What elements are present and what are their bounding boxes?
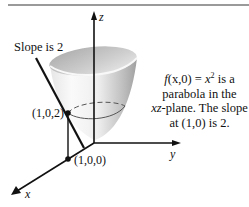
figure-caption: f(x,0) = x2 is a parabola in the xz-plan… xyxy=(150,72,249,130)
x-axis xyxy=(17,143,94,191)
caption-line-4: at (1,0) is 2. xyxy=(150,116,249,131)
slope-label: Slope is 2 xyxy=(14,41,63,54)
x-axis-arrow xyxy=(11,186,21,195)
caption-line-2: parabola in the xyxy=(150,87,249,102)
point-1-0-2 xyxy=(65,110,71,116)
caption-plane: xz xyxy=(151,101,161,115)
y-axis-arrow xyxy=(172,140,181,146)
point-label-1-0-0: (1,0,0) xyxy=(74,154,106,167)
caption-eq: = xyxy=(192,72,205,86)
point-1-0-0 xyxy=(65,156,71,162)
caption-line-1: f(x,0) = x2 is a xyxy=(150,72,249,87)
caption-tail: is a xyxy=(215,72,235,86)
z-axis-label: z xyxy=(99,11,104,24)
x-axis-label: x xyxy=(25,188,30,201)
y-axis-label: y xyxy=(170,148,175,161)
caption-args: (x,0) xyxy=(168,72,192,86)
z-axis-arrow xyxy=(91,11,97,20)
caption-line3-rest: -plane. The slope xyxy=(162,101,248,115)
point-label-1-0-2: (1,0,2) xyxy=(32,107,64,120)
caption-line-3: xz-plane. The slope xyxy=(150,101,249,116)
